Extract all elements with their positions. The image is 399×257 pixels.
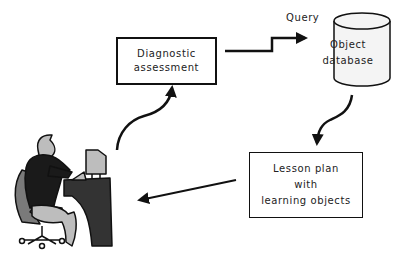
query-arrow <box>225 38 305 51</box>
query-label: Query <box>286 12 319 23</box>
database-line-2: database <box>312 53 384 69</box>
database-to-lesson-arrow <box>317 95 352 143</box>
person-at-computer-icon <box>15 135 112 249</box>
object-database-label: Object database <box>312 37 384 69</box>
lesson-plan-box: Lesson plan with learning objects <box>249 152 363 218</box>
lesson-line-1: Lesson plan <box>273 161 339 177</box>
diagnostic-line-1: Diagnostic <box>137 47 196 61</box>
database-line-1: Object <box>312 37 384 53</box>
lesson-line-2: with <box>294 177 318 193</box>
diagnostic-line-2: assessment <box>134 61 199 75</box>
diagnostic-assessment-box: Diagnostic assessment <box>116 37 217 85</box>
lesson-to-learner-arrow <box>140 180 236 200</box>
lesson-line-3: learning objects <box>261 193 351 209</box>
learner-to-diagnostic-arrow <box>117 88 172 150</box>
